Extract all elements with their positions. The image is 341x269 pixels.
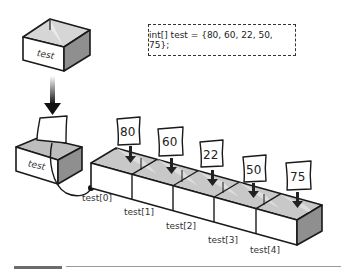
reference-box: test <box>16 116 82 184</box>
value-card-0-text: 80 <box>120 125 135 139</box>
variable-box: test <box>23 19 90 71</box>
value-card-3-text: 50 <box>246 163 261 177</box>
value-card-4-text: 75 <box>290 170 305 184</box>
index-label-1: test[1] <box>124 207 154 217</box>
bottom-divider <box>66 266 341 267</box>
value-card-1-text: 60 <box>162 135 177 149</box>
index-label-2: test[2] <box>166 221 196 231</box>
index-label-0: test[0] <box>82 193 112 203</box>
index-label-3: test[3] <box>208 235 238 245</box>
down-arrow-icon <box>44 76 61 115</box>
code-declaration-text: int[] test = {80, 60, 22, 50, 75}; <box>149 30 295 50</box>
code-declaration-box: int[] test = {80, 60, 22, 50, 75}; <box>148 24 296 56</box>
value-card-2-text: 22 <box>203 148 218 162</box>
index-label-4: test[4] <box>250 245 280 255</box>
